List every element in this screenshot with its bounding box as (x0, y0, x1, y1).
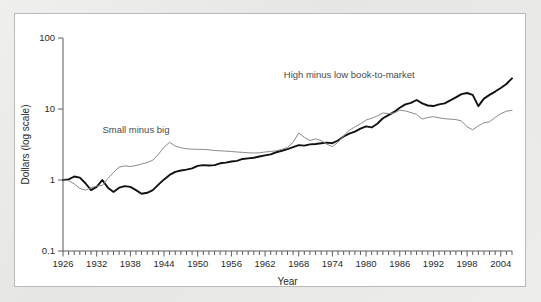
y-tick-label: 0.1 (42, 245, 55, 256)
series-line-high-minus-low-book-to-market (63, 78, 512, 193)
series-annotation-1: High minus low book-to-market (284, 69, 415, 80)
x-tick-label: 1992 (423, 258, 444, 269)
x-tick-label: 1944 (153, 258, 174, 269)
y-axis: 0.1110100 (39, 32, 63, 256)
series-line-small-minus-big (63, 110, 512, 190)
x-tick-label: 1956 (221, 258, 242, 269)
x-tick-label: 1950 (187, 258, 208, 269)
x-tick-label: 1998 (457, 258, 478, 269)
series-annotations: Small minus bigHigh minus low book-to-ma… (102, 69, 415, 135)
x-tick-label: 2004 (490, 258, 511, 269)
x-axis: 1926193219381944195019561962196819741980… (52, 251, 512, 269)
figure-root: 0.1110100 192619321938194419501956196219… (0, 0, 541, 302)
x-tick-label: 1926 (52, 258, 73, 269)
series-group (63, 78, 512, 193)
x-tick-label: 1932 (86, 258, 107, 269)
line-chart: 0.1110100 192619321938194419501956196219… (15, 14, 525, 286)
x-axis-title: Year (277, 276, 298, 286)
x-tick-label: 1980 (356, 258, 377, 269)
series-annotation-0: Small minus big (102, 124, 169, 135)
y-tick-label: 100 (39, 32, 55, 43)
x-tick-label: 1986 (389, 258, 410, 269)
x-tick-label: 1974 (322, 258, 343, 269)
y-axis-title: Dollars (log scale) (20, 104, 31, 184)
chart-panel: 0.1110100 192619321938194419501956196219… (14, 13, 526, 287)
y-tick-label: 10 (44, 103, 55, 114)
x-tick-label: 1938 (120, 258, 141, 269)
x-tick-label: 1962 (254, 258, 275, 269)
x-tick-label: 1968 (288, 258, 309, 269)
y-tick-label: 1 (50, 174, 55, 185)
